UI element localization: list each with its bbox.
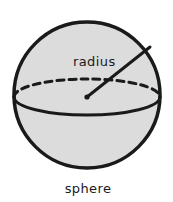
sphere-center-dot xyxy=(84,94,89,99)
radius-label: radius xyxy=(73,54,116,69)
sphere-figure: radius sphere xyxy=(0,0,173,202)
figure-caption: sphere xyxy=(65,181,112,196)
sphere-illustration: radius sphere xyxy=(0,0,173,202)
